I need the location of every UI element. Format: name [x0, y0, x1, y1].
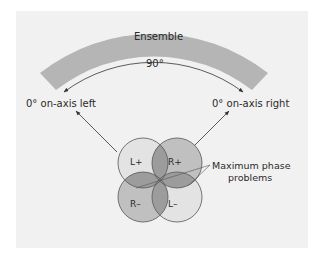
callout-label-line1: Maximum phase — [212, 160, 291, 171]
on-axis-left-label: 0° on-axis left — [26, 98, 96, 109]
circle-label-l-plus: L+ — [130, 157, 143, 167]
circle-label-r-minus: R– — [130, 199, 141, 209]
circle-label-l-minus: L– — [168, 199, 178, 209]
callout-label-line2: problems — [228, 172, 272, 183]
left-pointer-arrow — [76, 111, 117, 152]
circle-label-r-plus: R+ — [168, 157, 182, 167]
ensemble-label: Ensemble — [134, 31, 183, 42]
on-axis-right-label: 0° on-axis right — [212, 98, 289, 109]
angle-label: 90° — [146, 58, 164, 69]
